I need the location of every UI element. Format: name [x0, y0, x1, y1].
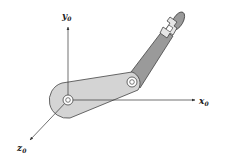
gripper	[160, 10, 187, 38]
elbow-joint	[127, 77, 137, 87]
x-axis-label: x0	[198, 96, 209, 107]
y-axis-label: y0	[61, 11, 72, 22]
base-joint	[63, 95, 73, 105]
z-axis-label: z0	[16, 143, 27, 154]
axis-z: z0	[16, 100, 68, 154]
link-1	[49, 72, 140, 118]
robot-arm-diagram: y0 x0 z0	[0, 0, 226, 161]
